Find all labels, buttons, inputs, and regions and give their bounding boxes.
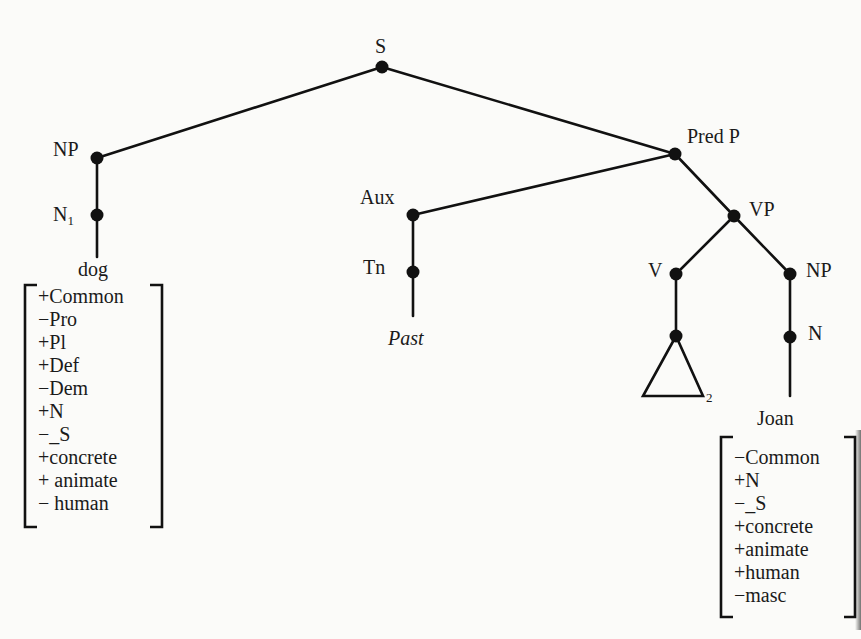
feature: −_S [38, 423, 70, 445]
terminal-joan: Joan [757, 407, 794, 429]
feature: −masc [734, 584, 786, 606]
node-labels: S NP N1 Pred P Aux Tn VP V NP N 2 [53, 35, 832, 405]
right-bracket [844, 437, 855, 617]
node-n-object [784, 331, 797, 344]
terminal-past: Past [387, 327, 424, 349]
terminals: dog Past Joan [78, 258, 794, 429]
tree-nodes [91, 61, 797, 344]
label-aux: Aux [360, 186, 394, 208]
edge-s-np [97, 67, 382, 158]
label-predp: Pred P [687, 125, 740, 147]
feature: +Common [38, 285, 124, 307]
feature: −Common [734, 446, 820, 468]
feature: −_S [734, 492, 766, 514]
feature: −Pro [38, 308, 77, 330]
feature-matrix-joan: −Common +N −_S +concrete +animate +human… [721, 437, 855, 617]
edge-predp-aux [413, 154, 675, 215]
feature: +concrete [734, 515, 813, 537]
feature: +concrete [38, 446, 117, 468]
node-vp [728, 210, 741, 223]
edge-predp-vp [675, 154, 734, 216]
feature-matrix-dog: +Common −Pro +Pl +Def −Dem +N −_S +concr… [25, 285, 162, 527]
edge-vp-np [734, 216, 790, 274]
label-n1: N1 [53, 203, 74, 228]
left-bracket [721, 437, 733, 617]
right-bracket [150, 285, 162, 527]
feature: +N [734, 469, 760, 491]
node-tn [407, 266, 420, 279]
feature: +human [734, 561, 800, 583]
feature: − human [38, 492, 109, 514]
triangle-abbreviation [643, 336, 703, 396]
terminal-dog: dog [78, 258, 108, 281]
feature: −Dem [38, 377, 89, 399]
feature: +animate [734, 538, 809, 560]
left-bracket [25, 285, 37, 527]
node-np-object [784, 268, 797, 281]
feature: + animate [38, 469, 118, 491]
node-v [670, 268, 683, 281]
node-np-subject [91, 152, 104, 165]
edge-s-predp [382, 67, 675, 154]
node-v-sub [670, 330, 683, 343]
feature: +N [38, 400, 64, 422]
node-predp [669, 148, 682, 161]
label-tn: Tn [363, 256, 385, 278]
edge-vp-v [676, 216, 734, 274]
label-v: V [648, 259, 663, 281]
tree-edges [97, 67, 790, 396]
label-np-object: NP [806, 259, 832, 281]
label-triangle-sub: 2 [706, 390, 713, 405]
label-s: S [375, 35, 386, 57]
page-edge-shadow [855, 430, 861, 630]
feature: +Pl [38, 331, 66, 353]
label-np-subject: NP [53, 138, 79, 160]
node-aux [407, 209, 420, 222]
feature: +Def [38, 354, 80, 376]
label-vp: VP [749, 198, 775, 220]
node-n1 [91, 209, 104, 222]
syntax-tree-diagram: S NP N1 Pred P Aux Tn VP V NP N 2 dog Pa… [0, 0, 861, 639]
label-n-object: N [808, 322, 822, 344]
node-s [376, 61, 389, 74]
